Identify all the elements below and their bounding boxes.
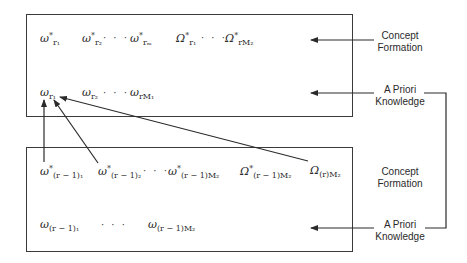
bracket-a-priori-link (424, 93, 446, 228)
arrow-Omega-r-M2-to-omega-r1 (60, 97, 308, 161)
arrow-omega-star-r-minus-1-2-to-omega-r1 (54, 100, 98, 163)
arrows-layer (0, 0, 467, 263)
